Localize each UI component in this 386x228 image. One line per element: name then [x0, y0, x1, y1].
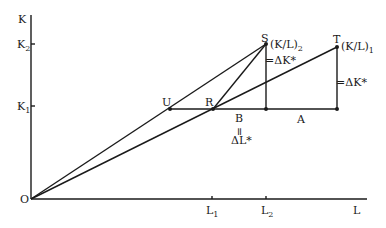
k-axis-label: K — [18, 13, 27, 26]
k1-label: K1 — [17, 100, 30, 115]
k2-label: K2 — [17, 38, 30, 53]
label-s: S — [261, 32, 269, 45]
origin-label: O — [20, 193, 29, 206]
segment-a-label: A — [296, 113, 306, 126]
l1-label: L1 — [206, 204, 218, 219]
label-u: U — [162, 96, 171, 109]
delta-k-t-label: =ΔK* — [336, 76, 367, 89]
delta-l-label: ΔL* — [231, 134, 252, 147]
ray-k-l-1 — [31, 47, 337, 199]
segment-b-label: B — [235, 112, 243, 125]
l-axis-label: L — [353, 204, 361, 217]
ray-k-l-2 — [31, 44, 266, 199]
delta-k-s-label: =ΔK* — [265, 54, 296, 67]
label-k-l-2: (K/L)2 — [270, 38, 303, 53]
l2-label: L2 — [261, 204, 273, 219]
label-r: R — [205, 96, 214, 109]
label-t: T — [333, 33, 341, 46]
point-foot-s — [264, 107, 268, 111]
point-foot-t — [335, 107, 339, 111]
label-k-l-1: (K/L)1 — [341, 40, 374, 55]
line-r-s — [213, 44, 266, 109]
factor-intensity-diagram: K K2 K1 O L1 L2 L S (K/L)2 T (K/L)1 U R … — [0, 0, 386, 228]
